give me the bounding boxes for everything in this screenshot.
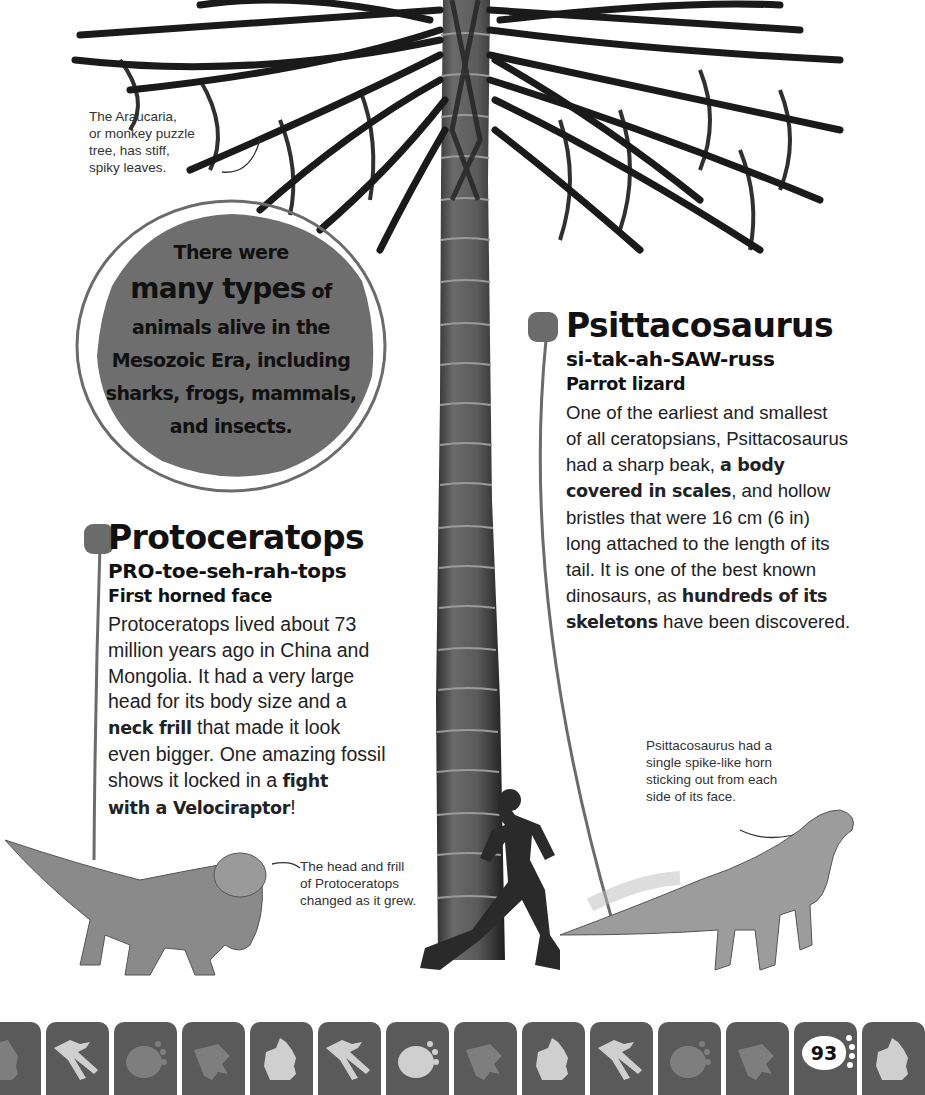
footprint-tile bbox=[46, 1022, 109, 1095]
species-pronunciation: si-tak-ah-SAW-russ bbox=[566, 346, 911, 372]
section-bullet-icon bbox=[528, 312, 558, 342]
page-number-tile: 93 bbox=[794, 1022, 857, 1095]
toe-dots-icon bbox=[794, 1022, 857, 1095]
hand-print-icon bbox=[862, 1022, 925, 1095]
species-title: Psittacosaurus bbox=[566, 306, 911, 346]
round-footprint-icon bbox=[114, 1022, 177, 1095]
species-meaning: Parrot lizard bbox=[566, 372, 911, 396]
psittacosaurus-horn-caption: Psittacosaurus had a single spike-like h… bbox=[646, 737, 826, 805]
hand-print-icon bbox=[250, 1022, 313, 1095]
species-pronunciation: PRO-toe-seh-rah-tops bbox=[108, 558, 408, 584]
hand-print-icon bbox=[0, 1022, 41, 1095]
footprint-tile bbox=[0, 1022, 41, 1095]
theropod-footprint-icon bbox=[182, 1022, 245, 1095]
footprint-tile bbox=[386, 1022, 449, 1095]
bird-footprint-icon bbox=[590, 1022, 653, 1095]
species-description: One of the earliest and smallest of all … bbox=[566, 400, 911, 636]
footprint-tile bbox=[590, 1022, 653, 1095]
protoceratops-head-caption: The head and frill of Protoceratops chan… bbox=[300, 858, 460, 909]
species-description: Protoceratops lived about 73 million yea… bbox=[108, 612, 408, 821]
protoceratops-illustration bbox=[5, 840, 266, 975]
footprint-tile bbox=[658, 1022, 721, 1095]
footprint-tile bbox=[182, 1022, 245, 1095]
footprint-tile bbox=[862, 1022, 925, 1095]
round-footprint-icon bbox=[658, 1022, 721, 1095]
species-meaning: First horned face bbox=[108, 584, 408, 608]
theropod-footprint-icon bbox=[454, 1022, 517, 1095]
footprint-tile bbox=[726, 1022, 789, 1095]
bird-footprint-icon bbox=[46, 1022, 109, 1095]
hand-print-icon bbox=[522, 1022, 585, 1095]
fact-callout: There were many types of animals alive i… bbox=[72, 196, 390, 496]
footprint-tile bbox=[114, 1022, 177, 1095]
bird-footprint-icon bbox=[318, 1022, 381, 1095]
footprint-footer-strip: 93 bbox=[0, 1022, 889, 1095]
araucaria-caption: The Araucaria, or monkey puzzle tree, ha… bbox=[89, 108, 259, 176]
footprint-tile bbox=[522, 1022, 585, 1095]
footprint-tile bbox=[318, 1022, 381, 1095]
footprint-tile bbox=[454, 1022, 517, 1095]
theropod-footprint-icon bbox=[726, 1022, 789, 1095]
footprint-tile bbox=[250, 1022, 313, 1095]
round-footprint-icon bbox=[386, 1022, 449, 1095]
species-title: Protoceratops bbox=[108, 518, 408, 558]
